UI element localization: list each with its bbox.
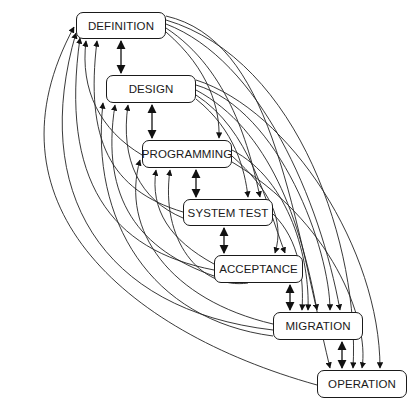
phase-box-acceptance: ACCEPTANCE	[214, 255, 303, 283]
phase-label-migration: MIGRATION	[285, 320, 350, 332]
phase-label-design: DESIGN	[129, 83, 174, 95]
feedback-edges-to-programming	[136, 160, 273, 324]
phase-label-operation: OPERATION	[328, 378, 396, 390]
phase-label-acceptance: ACCEPTANCE	[219, 263, 298, 275]
phase-label-programming: PROGRAMMING	[142, 148, 233, 160]
phase-box-design: DESIGN	[106, 75, 196, 103]
phase-box-programming: PROGRAMMING	[142, 140, 232, 168]
phase-box-operation: OPERATION	[317, 370, 407, 398]
phase-box-definition: DEFINITION	[76, 12, 166, 39]
phase-box-system-test: SYSTEM TEST	[183, 199, 273, 226]
phase-label-system-test: SYSTEM TEST	[188, 207, 269, 219]
phase-label-definition: DEFINITION	[88, 20, 154, 32]
phase-box-migration: MIGRATION	[273, 312, 363, 340]
